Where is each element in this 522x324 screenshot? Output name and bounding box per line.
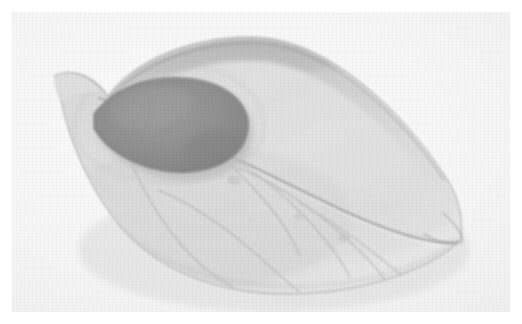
leaf-illustration [12, 12, 510, 312]
image-canvas: Grayscale leaf specimen photograph trans… [0, 0, 522, 324]
leaf-svg [12, 12, 510, 312]
photo-plate [12, 12, 510, 312]
